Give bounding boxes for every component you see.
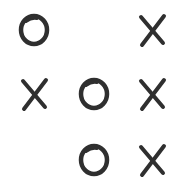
board-cell-0-1[interactable]: [72, 8, 116, 52]
x-mark-icon: [12, 72, 56, 116]
board-cell-1-0[interactable]: [12, 72, 56, 116]
x-mark-icon: [130, 72, 174, 116]
board-cell-1-2[interactable]: [130, 72, 174, 116]
board-cell-1-1[interactable]: [72, 72, 116, 116]
board-cell-0-2[interactable]: [130, 8, 174, 52]
o-mark-icon: [72, 138, 116, 182]
board-cell-2-2[interactable]: [130, 138, 174, 182]
o-mark-icon: [12, 8, 56, 52]
x-mark-icon: [130, 138, 174, 182]
board-cell-0-0[interactable]: [12, 8, 56, 52]
x-mark-icon: [130, 8, 174, 52]
board-cell-2-0[interactable]: [12, 138, 56, 182]
board-cell-2-1[interactable]: [72, 138, 116, 182]
o-mark-icon: [72, 72, 116, 116]
